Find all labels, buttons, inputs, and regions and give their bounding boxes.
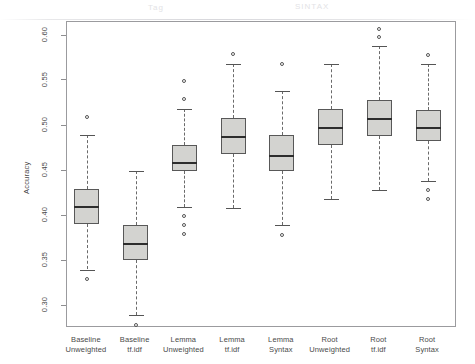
boxplot-lower-whisker — [428, 141, 429, 182]
y-axis-tick-label: 0.60 — [40, 21, 49, 47]
boxplot-box — [416, 110, 441, 141]
boxplot-lower-cap — [421, 181, 436, 182]
scan-artifact-text: SINTAX — [295, 2, 329, 11]
y-axis-title: Accuracy — [22, 162, 31, 194]
x-axis-tick-label-line: Root — [393, 335, 461, 345]
boxplot-upper-cap — [421, 64, 436, 65]
x-axis-tick-label: RootSyntax — [393, 335, 461, 355]
boxplot-outlier-point — [426, 53, 430, 57]
boxplot-upper-whisker — [428, 64, 429, 110]
x-axis-tick-label-line: Syntax — [393, 345, 461, 355]
boxplot-group — [67, 22, 455, 326]
y-axis-tick-label: 0.45 — [40, 156, 49, 182]
scan-artifact-text: Tag — [148, 3, 164, 12]
boxplot-outlier-point — [426, 188, 430, 192]
y-axis-tick-label: 0.35 — [40, 246, 49, 272]
plot-area — [66, 21, 456, 327]
y-axis-tick-label: 0.55 — [40, 66, 49, 92]
boxplot-outlier-point — [426, 197, 430, 201]
y-axis-tick-label: 0.30 — [40, 291, 49, 317]
boxplot-median-line — [416, 127, 441, 128]
y-axis-tick-label: 0.50 — [40, 111, 49, 137]
boxplot-figure: TagSINTAX Accuracy 0.300.350.400.450.500… — [0, 0, 475, 364]
y-axis-tick-label: 0.40 — [40, 201, 49, 227]
scan-artifact-line — [0, 19, 475, 20]
